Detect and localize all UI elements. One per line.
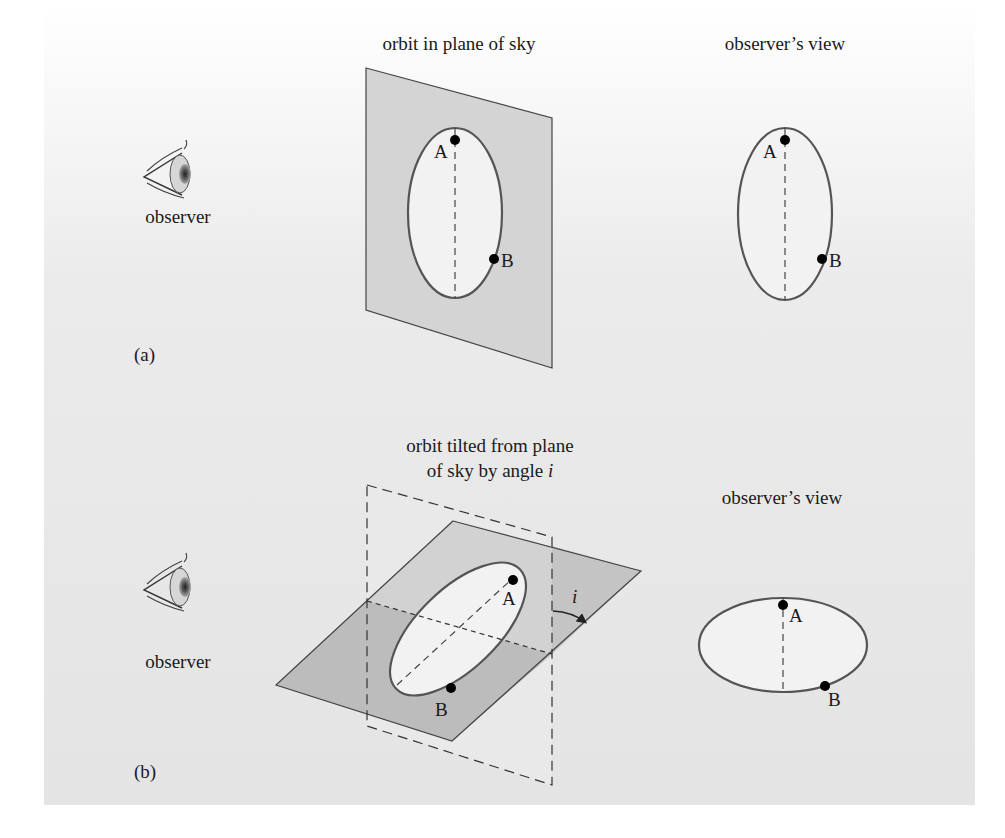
point-b-label: B [435, 699, 448, 720]
observed-point-a-label: A [789, 605, 803, 626]
point-b-label: B [501, 250, 514, 271]
point-a-dot [450, 135, 460, 145]
point-a-label: A [434, 141, 448, 162]
observed-point-b-label: B [829, 250, 842, 271]
point-a-label: A [502, 588, 516, 609]
tilted-orbit-title-line2: of sky by angle i [427, 460, 554, 481]
observed-point-a-label: A [763, 141, 777, 162]
observed-point-b-dot [817, 254, 827, 264]
panel-a-label: (a) [134, 344, 155, 366]
tilted-orbit-title-line1: orbit tilted from plane [406, 435, 573, 456]
point-b-dot [446, 683, 456, 693]
orbit-inclination-figure: observer orbit in plane of sky A B obser… [0, 0, 1005, 838]
observer-label: observer [145, 651, 211, 672]
observer-label: observer [145, 206, 211, 227]
point-b-dot [489, 254, 499, 264]
orbit-plane-title: orbit in plane of sky [382, 33, 536, 54]
point-a-dot [508, 575, 518, 585]
observed-point-b-label: B [828, 689, 841, 710]
observed-point-a-dot [778, 600, 788, 610]
observed-point-a-dot [780, 135, 790, 145]
observer-view-title: observer’s view [722, 487, 843, 508]
inclination-angle-label: i [572, 586, 577, 607]
panel-b-label: (b) [134, 761, 156, 783]
observer-view-title: observer’s view [725, 33, 846, 54]
